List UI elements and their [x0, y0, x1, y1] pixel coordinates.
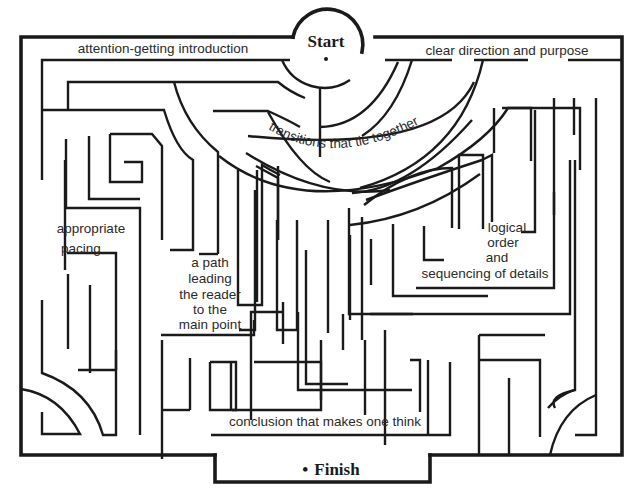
- maze-diagram: Start •Finish attention-getting introduc…: [0, 0, 642, 498]
- label-path-5: main point: [179, 317, 242, 332]
- maze-walls-top: [42, 60, 622, 395]
- finish-bullet: •: [302, 460, 308, 479]
- label-path-1: a path: [191, 255, 229, 270]
- label-conclusion: conclusion that makes one think: [229, 414, 421, 429]
- finish-label: •Finish: [302, 460, 360, 479]
- label-logical-3: and: [486, 250, 509, 265]
- label-logical-1: logical: [488, 220, 526, 235]
- finish-text: Finish: [314, 460, 360, 479]
- start-dot: [324, 57, 328, 61]
- label-intro: attention-getting introduction: [78, 41, 248, 56]
- label-direction: clear direction and purpose: [426, 43, 589, 58]
- label-path-2: leading: [188, 271, 232, 286]
- start-label: Start: [308, 32, 345, 51]
- start-inner-arc: [282, 60, 350, 88]
- label-logical-4: sequencing of details: [422, 266, 549, 281]
- maze-walls-bottom: [211, 335, 545, 455]
- label-path-3: the reader: [179, 287, 241, 302]
- label-pacing-1: appropriate: [57, 221, 125, 236]
- label-path-4: to the: [193, 302, 227, 317]
- label-pacing-2: pacing: [61, 241, 101, 256]
- label-logical-2: order: [487, 235, 519, 250]
- maze-walls-middle: [239, 160, 570, 445]
